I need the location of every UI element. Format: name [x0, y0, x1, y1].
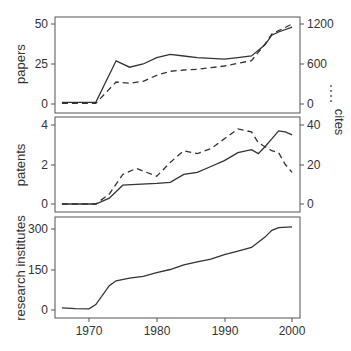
xtick-1980: 1980 [144, 324, 171, 338]
patents-cites-line [62, 129, 292, 204]
xtick-2000: 2000 [279, 324, 306, 338]
xtick-1990: 1990 [212, 324, 239, 338]
institutes-line [62, 227, 292, 309]
patents-ylabel: patents [13, 143, 28, 186]
chart-figure: 0 25 50 0 600 1200 papers 0 2 4 0 20 40 … [0, 0, 351, 351]
panel-papers-ticks [51, 24, 304, 104]
papers-cites-ytick-600: 600 [307, 57, 327, 71]
patents-cites-ytick-20: 20 [307, 158, 321, 172]
papers-line [62, 27, 292, 102]
papers-ytick-50: 50 [35, 17, 49, 31]
panel-papers-frame [55, 17, 300, 113]
institutes-ytick-150: 150 [28, 263, 48, 277]
papers-cites-line [62, 24, 292, 103]
institutes-ytick-0: 0 [41, 303, 48, 317]
papers-cites-ytick-1200: 1200 [307, 17, 334, 31]
papers-ytick-0: 0 [41, 97, 48, 111]
panel-patents-frame [55, 117, 300, 212]
patents-cites-ytick-40: 40 [307, 118, 321, 132]
panel-institutes-ticks [51, 229, 292, 322]
patents-ytick-0: 0 [41, 197, 48, 211]
institutes-ytick-300: 300 [28, 222, 48, 236]
patents-ytick-4: 4 [41, 118, 48, 132]
cites-ylabel: cites [332, 109, 347, 136]
papers-ytick-25: 25 [35, 57, 49, 71]
patents-cites-ytick-0: 0 [307, 197, 314, 211]
xtick-1970: 1970 [76, 324, 103, 338]
papers-ylabel: papers [13, 44, 28, 84]
patents-ytick-2: 2 [41, 158, 48, 172]
institutes-ylabel: research institutes [13, 215, 28, 321]
papers-cites-ytick-0: 0 [307, 97, 314, 111]
panel-patents-ticks [51, 125, 304, 204]
